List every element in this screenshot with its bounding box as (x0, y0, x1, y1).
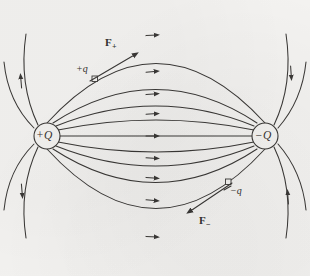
field-line-down-4-arrow (146, 236, 157, 237)
field-line-outer-left-lower-near (4, 144, 34, 210)
force-on-negative-test-charge-arrow (189, 183, 232, 212)
field-line-up-3-arrow (146, 71, 157, 72)
force-plus-symbol: F (105, 36, 112, 48)
force-minus-subscript: − (206, 220, 211, 229)
field-line-outer-left-upper-far-arrow (21, 76, 22, 88)
field-line-up-4-arrow (146, 35, 157, 36)
negative-source-charge-label: −Q (255, 130, 271, 142)
electric-dipole-figure: +Q −Q +q −q F+ F− (0, 0, 310, 276)
positive-test-charge-label: +q (76, 64, 88, 74)
force-plus-subscript: + (112, 42, 117, 51)
field-line-down-1-arrow (146, 158, 157, 159)
field-line-outer-right-lower-far (274, 147, 288, 238)
field-line-outer-right-upper-far-arrow (291, 66, 292, 78)
field-line-outer-left-upper-far (24, 34, 38, 125)
field-line-up-1-arrow (146, 114, 157, 115)
force-on-negative-test-charge-label: F− (199, 215, 210, 229)
field-line-outer-right-lower-near (278, 144, 306, 210)
force-on-positive-test-charge-label: F+ (105, 37, 116, 51)
force-vectors (90, 54, 232, 212)
field-line-down-2 (56, 146, 254, 166)
field-lines-outer-right (274, 34, 306, 238)
field-line-up-1 (58, 120, 254, 130)
test-charge-markers (92, 76, 231, 185)
field-line-up-2 (56, 106, 254, 126)
field-lines-outer-left (4, 34, 38, 238)
field-line-outer-left-lower-far (24, 147, 38, 238)
force-minus-symbol: F (199, 214, 206, 226)
field-line-outer-right-upper-near (278, 62, 306, 128)
field-line-outer-right-upper-far (274, 34, 288, 125)
positive-source-charge-label: +Q (36, 130, 52, 142)
negative-test-charge-label: −q (230, 186, 242, 196)
field-line-up-2-arrow (146, 94, 157, 95)
field-line-down-2-arrow (146, 177, 157, 178)
field-line-down-3-arrow (146, 200, 157, 201)
field-line-down-1 (58, 142, 254, 152)
field-line-outer-left-upper-near (4, 62, 34, 128)
field-line-outer-left-lower-far-arrow (21, 184, 22, 196)
